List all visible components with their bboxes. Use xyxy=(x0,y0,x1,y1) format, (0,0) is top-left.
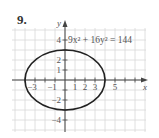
svg-text:4: 4 xyxy=(57,35,62,45)
svg-text:2: 2 xyxy=(57,55,62,65)
svg-text:3: 3 xyxy=(93,82,98,92)
svg-text:5: 5 xyxy=(113,82,118,92)
svg-text:−4: −4 xyxy=(51,115,61,125)
svg-text:x: x xyxy=(142,82,147,92)
svg-text:−1: −1 xyxy=(47,82,57,92)
svg-text:−2: −2 xyxy=(51,95,61,105)
svg-text:2: 2 xyxy=(83,82,88,92)
ellipse-graph: −3−11235421−2−4xy9x² + 16y² = 144 xyxy=(0,0,159,138)
svg-text:1: 1 xyxy=(57,65,62,75)
svg-text:1: 1 xyxy=(73,82,78,92)
svg-text:−3: −3 xyxy=(27,82,37,92)
svg-text:9x² + 16y² = 144: 9x² + 16y² = 144 xyxy=(68,35,132,45)
svg-text:y: y xyxy=(56,18,61,28)
